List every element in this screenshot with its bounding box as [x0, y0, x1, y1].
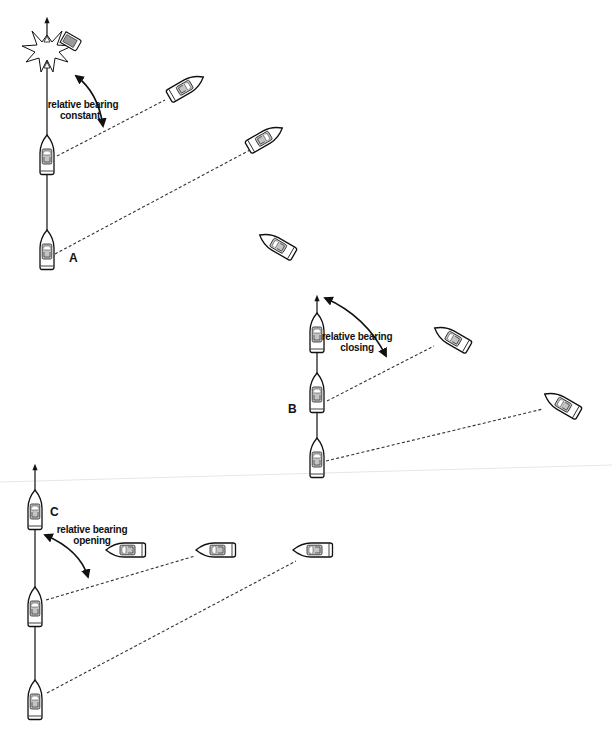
other-vessel-c-position-2: [196, 543, 236, 557]
page-fold-line: [0, 465, 612, 482]
sight-line-c-2: [46, 556, 195, 600]
other-vessel-c-position-1: [293, 543, 333, 557]
own-vessel-b-position-1: [310, 438, 324, 478]
caption-a-line2: constant: [60, 110, 101, 121]
other-vessel-b-position-1: [541, 388, 582, 420]
other-vessel-b-position-2: [431, 322, 472, 354]
other-vessel-a-position-2: [166, 71, 207, 103]
other-vessel-a-position-1: [245, 122, 286, 154]
caption-c-line2: opening: [73, 535, 111, 546]
sight-line-c-1: [47, 561, 296, 693]
caption-b-line2: closing: [340, 342, 374, 353]
own-vessel-c-position-1: [28, 680, 42, 720]
sight-line-b-2: [327, 346, 434, 401]
own-vessel-c-position-3: [28, 490, 42, 530]
own-vessel-b-position-2: [310, 373, 324, 413]
scenario-letter-c: C: [50, 505, 59, 519]
other-vessel-b-position-3: [256, 229, 297, 261]
own-vessel-a-position-1: [40, 230, 54, 270]
caption-c-line1: relative bearing: [57, 524, 128, 535]
scenario-c: relative bearing opening C: [28, 469, 333, 720]
scenario-b: relative bearing closing B: [256, 229, 582, 478]
sight-line-b-1: [326, 409, 543, 461]
caption-a-line1: relative bearing: [48, 99, 119, 110]
own-vessel-c-position-2: [28, 587, 42, 627]
scenario-letter-b: B: [288, 402, 297, 416]
scenario-a: relative bearing constant A: [22, 22, 286, 270]
scenario-letter-a: A: [69, 251, 78, 265]
other-vessel-c-position-3: [106, 543, 146, 557]
relative-bearing-diagram: relative bearing constant A relative bea…: [0, 0, 612, 732]
own-vessel-a-position-2: [40, 135, 54, 175]
sight-line-a-1: [55, 150, 250, 254]
caption-b-line1: relative bearing: [322, 331, 393, 342]
